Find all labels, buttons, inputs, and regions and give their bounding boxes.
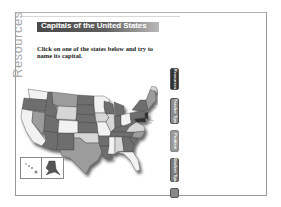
state-kansas[interactable]	[78, 122, 98, 133]
state-hawaii[interactable]	[23, 161, 40, 176]
state-michigan[interactable]	[114, 102, 124, 116]
state-new-york[interactable]	[132, 100, 148, 111]
state-indiana[interactable]	[115, 116, 121, 128]
state-wyoming[interactable]	[56, 106, 77, 120]
state-south-dakota[interactable]	[77, 105, 94, 115]
state-wisconsin[interactable]	[104, 101, 114, 114]
state-montana[interactable]	[52, 92, 78, 107]
state-mississippi[interactable]	[108, 137, 115, 154]
state-new-jersey[interactable]	[145, 112, 148, 119]
inset-alaska-hawaii	[20, 157, 64, 179]
state-colorado[interactable]	[58, 120, 78, 133]
state-florida[interactable]	[117, 152, 140, 171]
state-new-mexico[interactable]	[57, 133, 74, 150]
instructions-text: Click on one of the states below and try…	[37, 45, 157, 59]
tab-problem[interactable]: Problem	[170, 130, 179, 152]
state-new-england[interactable]	[146, 90, 156, 110]
sidebar-label: Resources	[10, 11, 25, 78]
state-oregon[interactable]	[22, 98, 47, 111]
state-north-dakota[interactable]	[77, 95, 94, 105]
tab-resources[interactable]: Resources	[170, 68, 179, 90]
tab-more[interactable]	[170, 188, 179, 198]
state-washington[interactable]	[28, 89, 48, 100]
state-tennessee[interactable]	[110, 132, 134, 137]
page-title-bar: Capitals of the United States	[37, 22, 159, 32]
page-title: Capitals of the United States	[41, 21, 147, 30]
top-divider	[20, 16, 180, 17]
state-ohio[interactable]	[121, 113, 131, 126]
tab-teacher-tips[interactable]: Teacher Tips	[170, 98, 179, 124]
state-arkansas[interactable]	[99, 136, 110, 146]
state-alaska[interactable]	[43, 159, 62, 177]
state-nebraska[interactable]	[76, 114, 97, 123]
inset-divider	[41, 158, 42, 178]
tab-student-tips[interactable]: Student Tips	[170, 158, 179, 182]
